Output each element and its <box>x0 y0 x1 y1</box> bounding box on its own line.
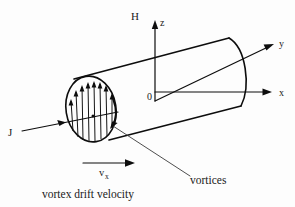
axes-group <box>152 20 274 101</box>
y-axis-label: y <box>279 38 284 49</box>
vortex-line <box>106 87 107 136</box>
vortex-line <box>82 87 83 140</box>
physics-diagram: H z y x 0 J v x vortices vortex drift ve… <box>0 0 295 207</box>
vortex-arrowhead <box>86 82 91 89</box>
drift-velocity-subscript: x <box>105 172 109 181</box>
x-axis-arrowhead <box>263 89 273 96</box>
magnetic-field-label: H <box>131 10 139 22</box>
vortex-line <box>94 83 95 141</box>
drift-velocity-arrowhead <box>125 159 135 167</box>
y-axis-line <box>155 47 268 101</box>
cylinder-top-edge <box>74 38 229 79</box>
x-axis-label: x <box>279 87 284 98</box>
vortex-arrowhead <box>92 81 97 88</box>
vortex-line <box>100 84 101 139</box>
vortices-leader-line <box>113 126 190 176</box>
current-axis-point <box>92 115 95 118</box>
z-axis-label: z <box>160 17 165 28</box>
vortex-line <box>76 92 78 137</box>
vortex-arrowhead <box>74 90 79 97</box>
current-arrow-line <box>22 112 118 131</box>
z-axis-arrowhead <box>152 20 158 29</box>
y-axis-arrowhead <box>264 44 274 51</box>
vortex-arrowhead <box>80 85 85 92</box>
current-arrow-group <box>22 112 118 131</box>
current-label: J <box>8 126 13 138</box>
cylinder-bottom-edge <box>109 106 241 140</box>
vortex-line <box>88 84 89 141</box>
vortex-arrowhead <box>98 82 103 89</box>
vortices-leader-group <box>110 99 190 176</box>
figure-root: H z y x 0 J v x vortices vortex drift ve… <box>0 0 295 207</box>
drift-velocity-arrow-group <box>83 159 135 167</box>
caption-label: vortex drift velocity <box>42 188 134 201</box>
labels-group: H z y x 0 J v x vortices vortex drift ve… <box>8 10 284 201</box>
origin-label: 0 <box>147 91 152 102</box>
drift-velocity-label-group: v x <box>99 167 109 181</box>
cylinder-right-cap <box>229 38 246 106</box>
vortex-arrowhead <box>69 99 74 106</box>
vortices-label: vortices <box>190 174 227 186</box>
current-arrowhead <box>57 120 66 126</box>
